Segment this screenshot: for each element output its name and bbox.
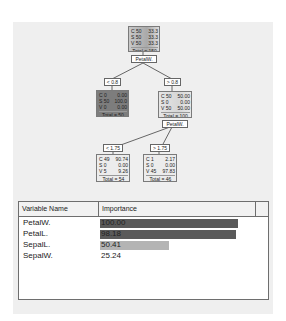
importance-value: 98.18	[101, 229, 121, 239]
variable-name: SepalW.	[19, 251, 99, 260]
condition-left: < 0.8	[104, 78, 121, 86]
table-header: Variable Name Importance	[19, 202, 268, 217]
importance-value: 25.24	[101, 251, 121, 261]
tree-node-right[interactable]: C 5050.00 S 00.00 V 5050.00 Total = 100	[158, 91, 192, 118]
variable-importance-table: Variable Name Importance PetalW. 100.00 …	[18, 201, 269, 300]
table-row[interactable]: SepalW. 25.24	[19, 250, 268, 261]
variable-name: SepalL.	[19, 240, 99, 249]
column-header-empty[interactable]	[256, 202, 268, 216]
column-header-variable-name[interactable]: Variable Name	[19, 202, 99, 216]
condition-right-right: > 1.75	[150, 144, 170, 152]
split-label-right: PetalW.	[162, 120, 188, 128]
tree-node-left[interactable]: C 00.00 S 50100.0 V 00.00 Total = 50	[96, 90, 129, 117]
variable-name: PetalW.	[19, 218, 99, 227]
condition-right: > 0.8	[164, 78, 181, 86]
importance-value: 100.00	[101, 218, 125, 228]
table-row[interactable]: SepalL. 50.41	[19, 239, 268, 250]
condition-right-left: < 1.75	[103, 144, 123, 152]
importance-value: 50.41	[101, 240, 121, 250]
tree-node-right-right[interactable]: C 12.17 S 00.00 V 4597.83 Total = 46	[143, 154, 177, 182]
table-row[interactable]: PetalW. 100.00	[19, 217, 268, 228]
tree-node-right-left[interactable]: C 4990.74 S 00.00 V 59.26 Total = 54	[96, 154, 130, 182]
tree-node-root[interactable]: C 5033.3 S 5033.3 V 5033.3 Total = 150	[128, 26, 160, 52]
decision-tree: C 5033.3 S 5033.3 V 5033.3 Total = 150 P…	[0, 0, 286, 195]
table-row[interactable]: PetalL. 98.18	[19, 228, 268, 239]
column-header-importance[interactable]: Importance	[99, 202, 256, 216]
variable-name: PetalL.	[19, 229, 99, 238]
split-label-root: PetalW.	[131, 55, 157, 63]
